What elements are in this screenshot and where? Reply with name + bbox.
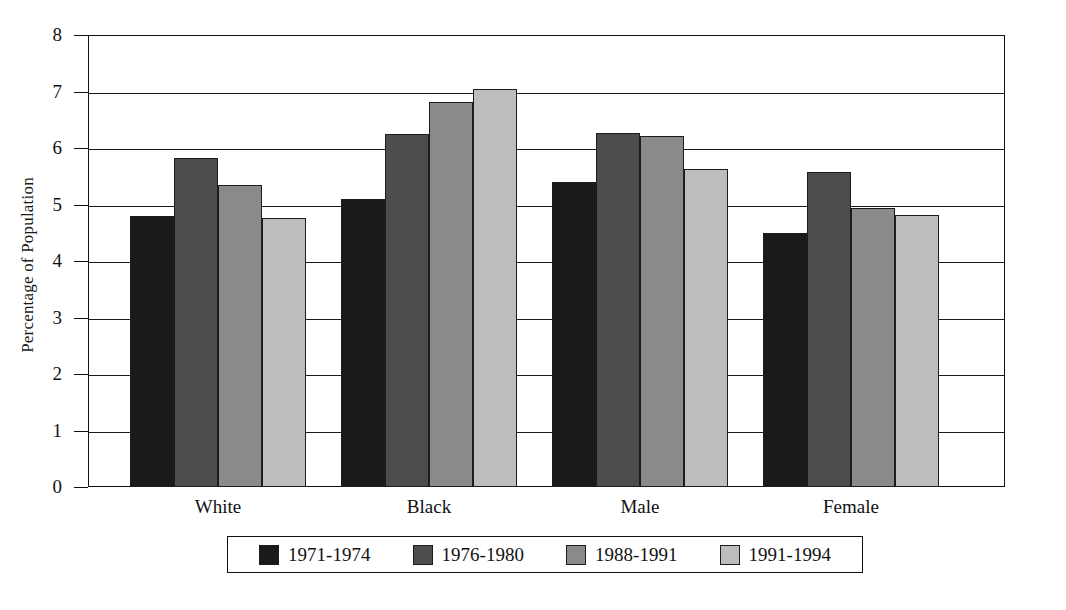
bar <box>429 102 473 487</box>
bar <box>341 199 385 487</box>
y-tick-label: 1 <box>16 421 62 440</box>
bar <box>763 233 807 487</box>
bar <box>262 218 306 488</box>
y-tick-label: 7 <box>16 82 62 101</box>
legend-label: 1988-1991 <box>595 544 677 566</box>
bar-chart: Percentage of Population 876543210 White… <box>0 0 1066 610</box>
legend-label: 1976-1980 <box>442 544 524 566</box>
y-tick-label: 0 <box>16 477 62 496</box>
y-tick-mark <box>74 318 88 319</box>
bar <box>895 215 939 487</box>
bar <box>174 158 218 487</box>
y-tick-label: 8 <box>16 25 62 44</box>
y-tick-mark <box>74 261 88 262</box>
y-tick-label: 5 <box>16 195 62 214</box>
y-tick-mark <box>74 374 88 375</box>
bar <box>130 216 174 487</box>
legend-item: 1971-1974 <box>259 544 370 566</box>
legend: 1971-19741976-19801988-19911991-1994 <box>227 536 863 573</box>
bar <box>807 172 851 487</box>
bar <box>640 136 684 487</box>
y-tick-mark <box>74 487 88 488</box>
y-tick-mark <box>74 148 88 149</box>
bars-layer <box>88 35 1005 487</box>
bar <box>385 134 429 487</box>
legend-label: 1971-1974 <box>288 544 370 566</box>
y-tick-mark <box>74 35 88 36</box>
legend-item: 1988-1991 <box>566 544 677 566</box>
bar <box>851 208 895 487</box>
y-tick-label: 4 <box>16 251 62 270</box>
bar <box>596 133 640 487</box>
y-tick-label: 3 <box>16 308 62 327</box>
y-tick-mark <box>74 92 88 93</box>
x-axis-label: Male <box>570 496 710 518</box>
legend-swatch-icon <box>720 545 740 565</box>
x-axis-label: Female <box>781 496 921 518</box>
bar <box>684 169 728 487</box>
y-tick-label: 2 <box>16 364 62 383</box>
x-axis-label: Black <box>359 496 499 518</box>
legend-item: 1991-1994 <box>720 544 831 566</box>
legend-swatch-icon <box>259 545 279 565</box>
legend-label: 1991-1994 <box>749 544 831 566</box>
bar <box>552 182 596 487</box>
legend-item: 1976-1980 <box>413 544 524 566</box>
y-tick-label: 6 <box>16 138 62 157</box>
x-axis-label: White <box>148 496 288 518</box>
legend-swatch-icon <box>413 545 433 565</box>
bar <box>473 89 517 487</box>
y-tick-mark <box>74 431 88 432</box>
y-tick-mark <box>74 205 88 206</box>
bar <box>218 185 262 487</box>
legend-swatch-icon <box>566 545 586 565</box>
